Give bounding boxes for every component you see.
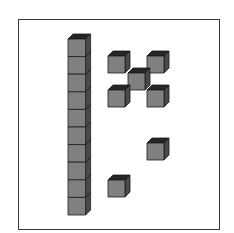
cube-front-face (147, 143, 164, 160)
cube-front-face (108, 180, 125, 197)
unit-cube (108, 85, 130, 107)
cube-front-face (68, 92, 86, 110)
cube-front-face (108, 90, 125, 107)
cube-front-face (147, 90, 164, 107)
unit-cube (108, 51, 130, 73)
cube-front-face (68, 162, 86, 180)
base-ten-blocks (0, 0, 234, 233)
cube-front-face (68, 180, 86, 198)
unit-cube (128, 68, 150, 90)
unit-cube (147, 85, 169, 107)
cube-front-face (108, 56, 125, 73)
cube-front-face (68, 145, 86, 163)
cube-front-face (68, 74, 86, 92)
cube-front-face (68, 109, 86, 127)
cube-front-face (68, 39, 86, 57)
cube-front-face (68, 57, 86, 75)
cube-front-face (128, 73, 145, 90)
cube-front-face (68, 197, 86, 215)
unit-cube (108, 175, 130, 197)
ten-rod (68, 34, 91, 215)
unit-cube (147, 138, 169, 160)
rod-cube (68, 34, 91, 57)
cube-front-face (68, 127, 86, 145)
